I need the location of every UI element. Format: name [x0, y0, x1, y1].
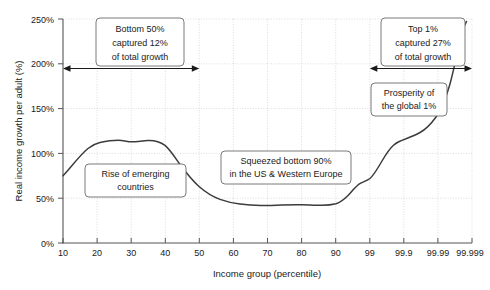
y-tick-label-200: 200% — [31, 59, 54, 69]
x-tick-label-99: 99 — [365, 248, 375, 258]
top1-arrow-head-right-icon — [465, 65, 473, 72]
x-tick-label-20: 20 — [92, 248, 102, 258]
x-tick-label-80: 80 — [297, 248, 307, 258]
bottom50-arrow-head-left-icon — [63, 65, 71, 72]
x-tick-label-99-999: 99.999 — [456, 248, 484, 258]
x-tick-label-70: 70 — [262, 248, 272, 258]
callout-bottom-50-line3: of total growth — [112, 52, 169, 62]
callout-top-1-line3: of total growth — [395, 52, 452, 62]
y-tick-label-250: 250% — [31, 15, 54, 25]
callout-bottom-50-line2: captured 12% — [112, 38, 168, 48]
chart-canvas: 250% 200% 150% 100% 50% 0% 10 20 — [0, 0, 490, 290]
callout-emerging-countries-line2: countries — [117, 182, 154, 192]
callout-emerging-countries-line1: Rise of emerging — [101, 169, 169, 179]
callout-global-1-line2: the global 1% — [382, 101, 437, 111]
callout-squeezed-bottom-90: Squeezed bottom 90% in the US & Western … — [221, 151, 351, 184]
x-tick-label-30: 30 — [126, 248, 136, 258]
elephant-curve-chart: 250% 200% 150% 100% 50% 0% 10 20 — [0, 0, 490, 290]
x-axis-tick-labels: 10 20 30 40 50 60 70 80 90 99 99.9 99.99… — [58, 248, 484, 258]
y-tick-label-0: 0% — [41, 239, 54, 249]
y-axis-tick-labels: 250% 200% 150% 100% 50% 0% — [31, 15, 54, 249]
x-tick-label-60: 60 — [228, 248, 238, 258]
y-tick-label-100: 100% — [31, 149, 54, 159]
y-tick-label-150: 150% — [31, 104, 54, 114]
callout-bottom-50: Bottom 50% captured 12% of total growth — [96, 18, 184, 66]
callout-top-1: Top 1% captured 27% of total growth — [381, 18, 465, 66]
x-tick-label-99-99: 99.99 — [427, 248, 450, 258]
x-tick-label-99-9: 99.9 — [395, 248, 413, 258]
x-tick-label-10: 10 — [58, 248, 68, 258]
x-axis-title: Income group (percentile) — [213, 268, 321, 279]
top1-arrow-head-left-icon — [370, 65, 378, 72]
callout-top-1-line2: captured 27% — [395, 38, 451, 48]
callout-bottom-50-line1: Bottom 50% — [115, 24, 164, 34]
callout-global-1-line1: Prosperity of — [384, 88, 435, 98]
callout-global-1: Prosperity of the global 1% — [371, 83, 447, 116]
callout-emerging-countries: Rise of emerging countries — [85, 164, 186, 197]
x-axis-ticks — [63, 238, 472, 243]
bottom50-arrow-head-right-icon — [192, 65, 200, 72]
y-axis-ticks — [58, 19, 63, 243]
x-tick-label-50: 50 — [194, 248, 204, 258]
callout-top-1-line1: Top 1% — [408, 24, 438, 34]
callout-squeezed-bottom-90-line1: Squeezed bottom 90% — [240, 156, 331, 166]
x-tick-label-90: 90 — [331, 248, 341, 258]
y-axis-title: Real income growth per adult (%) — [13, 61, 24, 202]
y-tick-label-50: 50% — [36, 194, 54, 204]
x-tick-label-40: 40 — [160, 248, 170, 258]
callout-squeezed-bottom-90-line2: in the US & Western Europe — [230, 169, 343, 179]
